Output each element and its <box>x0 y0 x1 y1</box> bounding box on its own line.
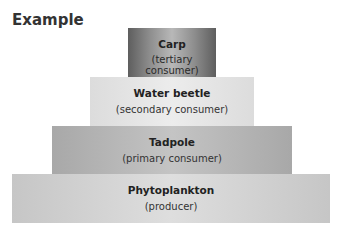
organism-name: Tadpole <box>52 136 292 148</box>
organism-name: Carp <box>128 38 216 50</box>
pyramid-level-tertiary-consumer: Carp (tertiary consumer) <box>128 28 216 78</box>
organism-name: Water beetle <box>90 87 254 99</box>
trophic-role: (primary consumer) <box>52 153 292 164</box>
pyramid-level-secondary-consumer: Water beetle (secondary consumer) <box>90 77 254 126</box>
trophic-role: (secondary consumer) <box>90 104 254 115</box>
trophic-role: (tertiary consumer) <box>128 54 216 76</box>
example-heading: Example <box>12 11 84 29</box>
pyramid-level-primary-consumer: Tadpole (primary consumer) <box>52 126 292 175</box>
trophic-role: (producer) <box>12 201 330 212</box>
pyramid-level-producer: Phytoplankton (producer) <box>12 174 330 223</box>
organism-name: Phytoplankton <box>12 184 330 196</box>
